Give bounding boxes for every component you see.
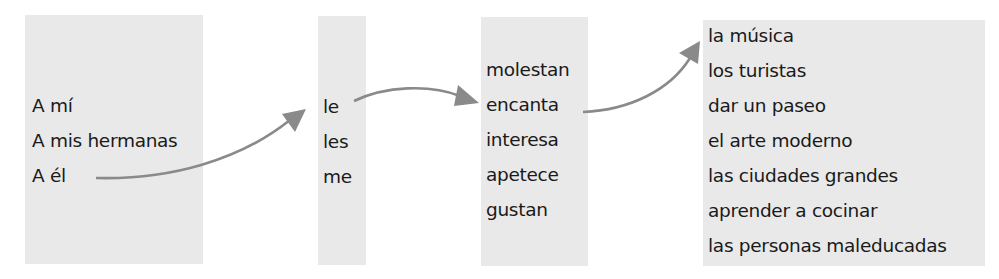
pronoun-item: me xyxy=(323,159,366,194)
object-item: el arte moderno xyxy=(708,123,985,158)
pronoun-item: le xyxy=(323,89,366,124)
object-list: la música los turistas dar un paseo el a… xyxy=(703,18,985,263)
subject-item: A mis hermanas xyxy=(32,123,203,158)
subject-item: A mí xyxy=(32,88,203,123)
object-item: las personas maleducadas xyxy=(708,228,985,263)
verb-item: molestan xyxy=(486,52,588,87)
arrow-head-icon xyxy=(679,41,700,64)
arrow-head-icon xyxy=(454,85,479,106)
verb-item: apetece xyxy=(486,157,588,192)
subject-list: A mí A mis hermanas A él xyxy=(25,88,203,193)
arrow-verb-to-object xyxy=(583,41,700,112)
object-column: la música los turistas dar un paseo el a… xyxy=(703,20,985,266)
subject-column: A mí A mis hermanas A él xyxy=(25,15,203,264)
pronoun-list: le les me xyxy=(318,89,366,194)
arrow-line xyxy=(354,88,460,101)
object-item: dar un paseo xyxy=(708,88,985,123)
verb-column: molestan encanta interesa apetece gustan xyxy=(481,17,588,266)
arrow-line xyxy=(583,58,690,112)
pronoun-column: le les me xyxy=(318,16,366,265)
verb-item: gustan xyxy=(486,192,588,227)
subject-item: A él xyxy=(32,158,203,193)
pronoun-item: les xyxy=(323,124,366,159)
verb-item: encanta xyxy=(486,87,588,122)
object-item: las ciudades grandes xyxy=(708,158,985,193)
arrow-head-icon xyxy=(282,109,306,132)
arrow-pronoun-to-verb xyxy=(354,85,479,106)
object-item: aprender a cocinar xyxy=(708,193,985,228)
verb-item: interesa xyxy=(486,122,588,157)
verb-list: molestan encanta interesa apetece gustan xyxy=(481,52,588,227)
object-item: los turistas xyxy=(708,53,985,88)
object-item: la música xyxy=(708,18,985,53)
